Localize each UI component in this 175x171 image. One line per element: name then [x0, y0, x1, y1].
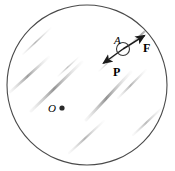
- point-a-label: A: [113, 34, 121, 46]
- figure-container: O A F P: [0, 0, 175, 171]
- vector-f-label: F: [143, 41, 150, 55]
- disk-diagram: O A F P: [0, 0, 175, 171]
- center-point-dot: [59, 105, 64, 110]
- disk-outline: [7, 5, 167, 165]
- center-point-label: O: [48, 102, 56, 114]
- vector-p-label: P: [113, 65, 120, 79]
